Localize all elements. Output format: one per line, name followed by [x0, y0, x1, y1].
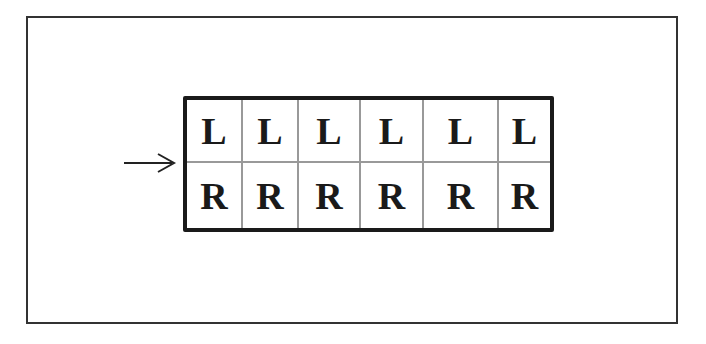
- cell-l-4: L: [361, 100, 422, 161]
- cell-r-6: R: [499, 163, 550, 228]
- cell-r-5: R: [424, 163, 497, 228]
- cell-r-4: R: [361, 163, 422, 228]
- cell-l-3: L: [299, 100, 359, 161]
- letter-grid: L L L L L L R R R R R R: [183, 96, 554, 232]
- cell-r-1: R: [187, 163, 241, 228]
- right-arrow-icon: [122, 152, 178, 174]
- cell-r-2: R: [243, 163, 297, 228]
- cell-r-3: R: [299, 163, 359, 228]
- cell-l-1: L: [187, 100, 241, 161]
- cell-l-6: L: [499, 100, 550, 161]
- cell-l-2: L: [243, 100, 297, 161]
- cell-l-5: L: [424, 100, 497, 161]
